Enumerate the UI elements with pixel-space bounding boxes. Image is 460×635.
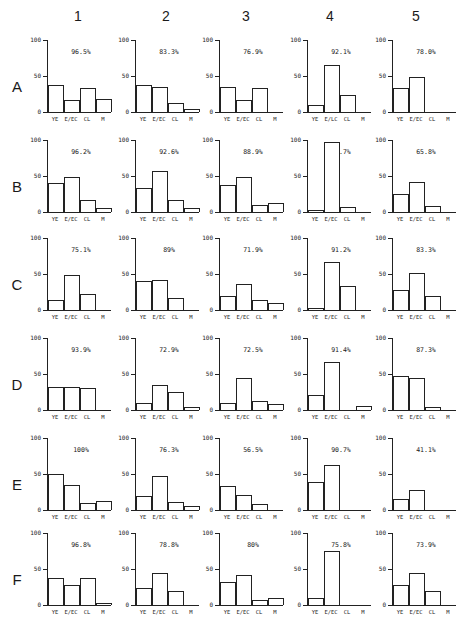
y-tick-label: 100	[118, 137, 129, 143]
y-tick-label: 50	[206, 566, 213, 572]
bar-chart-E1: 100500100%YEE/ECCLM	[47, 438, 125, 524]
bar-e-ec	[236, 378, 252, 410]
y-tick-label: 50	[379, 371, 386, 377]
bar-chart-C3: 10050071.9%YEE/ECCLM	[219, 238, 297, 324]
y-tick-label: 0	[37, 209, 41, 215]
x-axis	[135, 212, 199, 213]
x-tick-label: CL	[251, 216, 267, 222]
y-tick: 0	[303, 410, 307, 411]
bar-ye	[393, 499, 409, 510]
y-tick: 50	[131, 76, 135, 77]
bar-ye	[136, 496, 152, 510]
x-tick-label: E/EC	[408, 314, 424, 320]
bar-e-ec	[152, 476, 168, 510]
y-tick-label: 0	[382, 307, 386, 313]
bar-e-ec	[324, 262, 340, 310]
x-tick-label: M	[183, 414, 199, 420]
bar-e-ec	[409, 182, 425, 212]
x-tick-label: E/EC	[151, 116, 167, 122]
x-axis	[135, 410, 199, 411]
y-tick: 100	[215, 238, 219, 239]
y-tick-label: 100	[118, 37, 129, 43]
x-tick-label: CL	[251, 116, 267, 122]
bar-chart-E4: 10050090.7%YEE/ECCLM	[307, 438, 385, 524]
row-header-B: B	[8, 178, 26, 195]
x-tick-label: M	[440, 414, 456, 420]
y-tick: 50	[43, 176, 47, 177]
x-tick-label: CL	[167, 116, 183, 122]
percentage-label: 89%	[149, 246, 189, 254]
y-tick: 100	[43, 40, 47, 41]
bar-e-ec	[64, 177, 80, 212]
bar-e-ec	[409, 378, 425, 410]
y-tick: 50	[215, 569, 219, 570]
x-tick-label: CL	[339, 314, 355, 320]
y-tick: 100	[43, 238, 47, 239]
row-header-F: F	[8, 571, 26, 588]
y-tick: 0	[43, 212, 47, 213]
x-tick-label: M	[267, 514, 283, 520]
y-tick: 50	[303, 474, 307, 475]
y-tick-label: 100	[290, 37, 301, 43]
y-tick-label: 100	[30, 435, 41, 441]
y-axis	[307, 40, 308, 112]
y-tick-label: 100	[375, 235, 386, 241]
percentage-label: 96.2%	[61, 148, 101, 156]
y-tick: 100	[131, 40, 135, 41]
x-tick-label: CL	[251, 314, 267, 320]
x-tick-label: YE	[392, 116, 408, 122]
bar-m	[184, 506, 200, 510]
y-tick: 100	[215, 40, 219, 41]
x-tick-label: E/EC	[151, 609, 167, 615]
y-tick-label: 0	[382, 602, 386, 608]
y-tick-label: 100	[375, 435, 386, 441]
bar-chart-D4: 10050091.4%YEE/ECCLM	[307, 338, 385, 424]
x-tick-label: E/LC	[323, 116, 339, 122]
bar-m	[96, 99, 112, 112]
bar-cl	[252, 401, 268, 410]
y-tick: 50	[388, 569, 392, 570]
x-axis	[307, 510, 371, 511]
x-tick-label: M	[95, 514, 111, 520]
y-tick-label: 50	[34, 73, 41, 79]
x-tick-label: YE	[307, 414, 323, 420]
x-axis	[307, 112, 371, 113]
x-axis	[47, 212, 111, 213]
x-tick-label: CL	[79, 314, 95, 320]
y-tick-label: 50	[122, 173, 129, 179]
x-tick-label: E/EC	[63, 609, 79, 615]
percentage-label: 73.9%	[406, 541, 446, 549]
bar-chart-F3: 10050080%YEE/ECCLM	[219, 533, 297, 619]
y-tick-label: 100	[290, 235, 301, 241]
bar-cl	[425, 407, 441, 410]
y-tick: 0	[131, 510, 135, 511]
percentage-label: 76.9%	[233, 48, 273, 56]
y-tick-label: 100	[375, 335, 386, 341]
bar-ye	[220, 296, 236, 310]
bar-cl	[80, 200, 96, 212]
y-tick: 100	[388, 40, 392, 41]
x-axis	[135, 310, 199, 311]
y-tick-label: 50	[34, 471, 41, 477]
y-tick: 0	[131, 212, 135, 213]
bar-chart-D1: 10050093.9%YEE/ECCLM	[47, 338, 125, 424]
y-axis	[135, 338, 136, 410]
column-header-4: 4	[320, 8, 340, 24]
bar-chart-C2: 10050089%YEE/ECCLM	[135, 238, 213, 324]
bar-chart-F2: 10050078.8%YEE/ECCLM	[135, 533, 213, 619]
y-tick: 100	[215, 338, 219, 339]
x-tick-label: CL	[339, 116, 355, 122]
x-tick-label: M	[267, 414, 283, 420]
column-header-3: 3	[236, 8, 256, 24]
percentage-label: 72.9%	[149, 346, 189, 354]
bar-ye	[220, 185, 236, 212]
x-axis	[135, 510, 199, 511]
x-axis	[47, 310, 111, 311]
column-header-5: 5	[406, 8, 426, 24]
y-tick-label: 50	[379, 173, 386, 179]
x-tick-label: YE	[135, 216, 151, 222]
y-tick: 50	[303, 569, 307, 570]
bar-chart-F4: 10050075.8%YEE/ECCLM	[307, 533, 385, 619]
bar-m	[356, 406, 372, 410]
bar-ye	[308, 105, 324, 112]
